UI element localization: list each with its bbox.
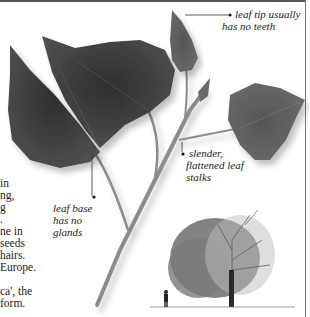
body-text-line-2: ng, bbox=[0, 189, 14, 201]
human-scale-figure bbox=[164, 290, 168, 307]
leaf-right bbox=[228, 83, 305, 160]
body-text-line-3: g bbox=[0, 201, 6, 213]
leader-dot-leaf-tip bbox=[228, 13, 231, 16]
body-text-line-5: ne in bbox=[0, 225, 23, 237]
book-page: in ng, g . ne in seeds hairs. Europe. ca… bbox=[0, 0, 310, 317]
body-text-line-1: in bbox=[0, 177, 9, 189]
annotation-leaf-tip-line1: leaf tip usually bbox=[235, 9, 300, 20]
body-text-line-10: ca', the bbox=[0, 285, 32, 297]
body-text-line-11: form. bbox=[0, 297, 25, 309]
annotation-leaf-tip-line2: has no teeth bbox=[222, 21, 275, 32]
leaf-tip bbox=[170, 10, 198, 72]
leaf-bud bbox=[198, 78, 210, 102]
annotation-stalks-line2: flattened leaf bbox=[186, 160, 244, 171]
annotation-leaf-base-line2: has no bbox=[53, 215, 82, 226]
body-text-line-8: Europe. bbox=[0, 261, 36, 273]
annotation-leaf-base-line3: glands bbox=[53, 227, 82, 238]
body-text-line-4: . bbox=[0, 213, 3, 225]
body-text-line-6: seeds bbox=[0, 237, 25, 249]
leader-dot-leaf-base bbox=[92, 195, 95, 198]
annotation-leaf-base-line1: leaf base bbox=[53, 203, 92, 214]
leafy-twig-illustration bbox=[0, 0, 310, 317]
leader-dot-stalks bbox=[181, 152, 184, 155]
annotation-stalks-line1: slender, bbox=[189, 148, 223, 159]
mature-tree-inset bbox=[150, 210, 295, 307]
body-text-line-7: hairs. bbox=[0, 249, 25, 261]
annotation-stalks-line3: stalks bbox=[186, 172, 211, 183]
